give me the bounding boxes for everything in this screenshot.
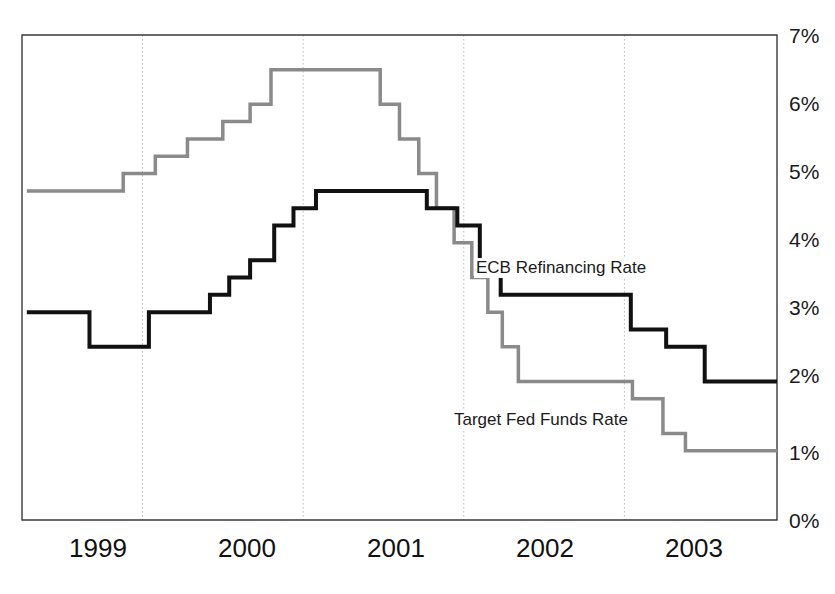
y-tick-label-7: 7%: [789, 25, 819, 46]
chart-container: 7% 6% 5% 4% 3% 2% 1% 0% 1999 2000 2001 2…: [0, 0, 835, 594]
x-tick-label-2002: 2002: [485, 535, 605, 561]
data-series-lines: [27, 70, 777, 451]
y-tick-label-0: 0%: [789, 510, 819, 531]
x-tick-label-2003: 2003: [634, 535, 754, 561]
series-line-ecb-refinancing-rate: [27, 191, 777, 382]
y-tick-label-2: 2%: [789, 365, 819, 386]
x-tick-label-1999: 1999: [38, 535, 158, 561]
x-tick-label-2000: 2000: [187, 535, 307, 561]
x-tick-label-2001: 2001: [336, 535, 456, 561]
series-annotation-ecb: ECB Refinancing Rate: [474, 258, 648, 278]
chart-plot-area: [0, 0, 835, 594]
series-annotation-fed: Target Fed Funds Rate: [452, 410, 630, 430]
y-tick-label-5: 5%: [789, 161, 819, 182]
y-tick-label-4: 4%: [789, 229, 819, 250]
y-tick-label-3: 3%: [789, 297, 819, 318]
series-line-target-fed-funds-rate: [27, 70, 777, 451]
y-tick-label-6: 6%: [789, 93, 819, 114]
y-tick-label-1: 1%: [789, 442, 819, 463]
